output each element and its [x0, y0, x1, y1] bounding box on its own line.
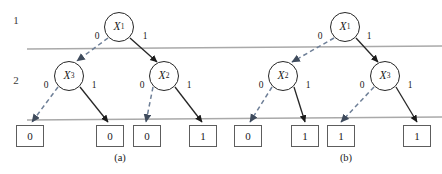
edge-b-0-branch-0 [292, 38, 334, 62]
edge-label-b-6: 1 [405, 80, 415, 90]
decision-tree-figure: 12 X1X3X2X1X2X3 00010111 010101010101 (a… [0, 0, 442, 174]
edge-a-5-branch-1 [175, 87, 202, 122]
level-label-2: 2 [9, 74, 23, 86]
node-subscript: 3 [387, 72, 391, 80]
node-variable: X [379, 70, 386, 82]
edge-b-3-branch-1 [294, 87, 305, 122]
node-subscript: 2 [166, 72, 170, 80]
node-a-x3: X3 [54, 61, 84, 91]
node-b-x3: X3 [370, 61, 400, 91]
node-a-x1: X1 [104, 12, 134, 42]
node-variable: X [113, 21, 120, 33]
node-variable: X [63, 70, 70, 82]
node-subscript: 1 [121, 23, 125, 31]
leaf-box-a-3: 0 [133, 125, 161, 147]
leaf-box-b-2: 1 [291, 125, 319, 147]
edge-b-2-branch-0 [250, 87, 272, 122]
edge-a-1-branch-1 [130, 38, 157, 62]
edge-label-b-1: 0 [315, 31, 325, 41]
separator-line-1 [27, 46, 442, 49]
separator-line-2 [27, 117, 442, 120]
leaf-box-a-4: 1 [189, 125, 217, 147]
node-b-x1: X1 [330, 12, 360, 42]
edge-label-a-2: 1 [140, 31, 150, 41]
edge-label-a-1: 0 [92, 31, 102, 41]
level-label-1: 1 [9, 14, 23, 26]
node-subscript: 1 [347, 23, 351, 31]
caption-b: (b) [326, 152, 366, 163]
edge-a-2-branch-0 [32, 87, 58, 122]
caption-a: (a) [100, 152, 140, 163]
node-b-x2: X2 [268, 61, 298, 91]
edge-label-a-3: 0 [41, 80, 51, 90]
edge-label-b-3: 0 [256, 80, 266, 90]
edge-label-a-5: 0 [137, 80, 147, 90]
edge-label-a-6: 1 [184, 80, 194, 90]
node-variable: X [339, 21, 346, 33]
edge-label-b-4: 1 [303, 80, 313, 90]
edge-a-3-branch-1 [80, 87, 108, 122]
leaf-box-a-1: 0 [16, 125, 44, 147]
edge-label-a-4: 1 [89, 80, 99, 90]
leaf-box-b-1: 0 [234, 125, 262, 147]
leaf-box-a-2: 0 [96, 125, 124, 147]
edge-b-4-branch-0 [341, 87, 374, 122]
edge-label-b-2: 1 [364, 31, 374, 41]
node-variable: X [158, 70, 165, 82]
node-a-x2: X2 [149, 61, 179, 91]
edge-b-1-branch-1 [356, 38, 378, 62]
node-variable: X [277, 70, 284, 82]
edge-label-b-5: 0 [357, 80, 367, 90]
node-subscript: 3 [71, 72, 75, 80]
node-subscript: 2 [285, 72, 289, 80]
edge-a-4-branch-0 [146, 87, 153, 122]
edge-a-0-branch-0 [77, 38, 108, 61]
leaf-box-b-3: 1 [327, 125, 355, 147]
leaf-box-b-4: 1 [403, 125, 431, 147]
